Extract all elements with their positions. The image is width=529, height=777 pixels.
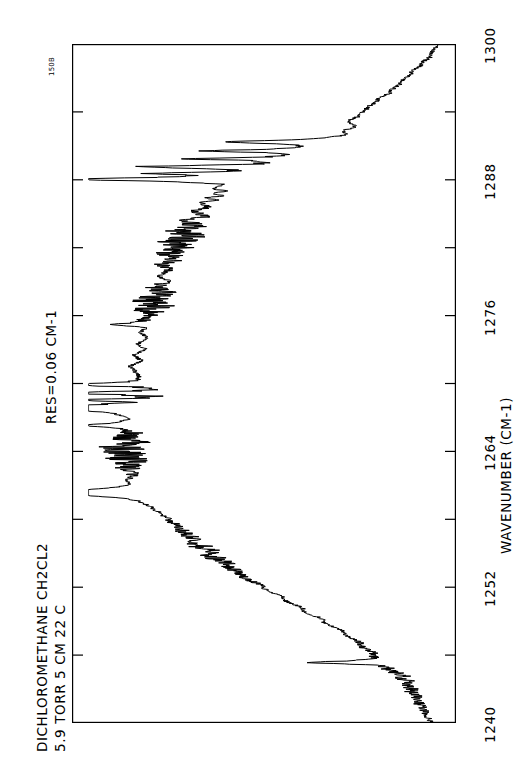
spectrum-plot: [72, 44, 456, 723]
axis-tick-label: 1276: [482, 299, 498, 336]
axis-tick-label: 1264: [482, 435, 498, 472]
axis-tick-label: 1288: [482, 163, 498, 200]
axis-tick-label: 1240: [482, 706, 498, 743]
axis-title-label: WAVENUMBER (CM-1): [498, 397, 514, 554]
plot-area: [72, 44, 456, 723]
axis-tick-label: 1252: [482, 570, 498, 607]
spectrum-id-label: 150B: [48, 57, 56, 76]
plot-frame: [73, 45, 456, 723]
spectrum-page: DICHLOROMETHANE CH2CL2 5.9 TORR 5 CM 22 …: [0, 0, 529, 777]
resolution-label: RES=0.06 CM-1: [43, 310, 59, 424]
sample-name-label: DICHLOROMETHANE CH2CL2: [34, 543, 50, 752]
axis-tick-label: 1300: [482, 27, 498, 64]
sample-conditions-label: 5.9 TORR 5 CM 22 C: [52, 604, 68, 752]
